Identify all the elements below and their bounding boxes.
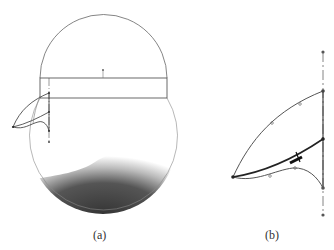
lower-circle-shaded [20,60,190,220]
tip-point [231,175,235,179]
caption-b: (b) [265,228,279,243]
panel-b [231,50,325,216]
panel-a [12,15,190,221]
marker-point [102,69,104,71]
figure-canvas [0,0,334,250]
lower-curve-b [233,168,323,188]
caption-a: (a) [93,228,106,243]
